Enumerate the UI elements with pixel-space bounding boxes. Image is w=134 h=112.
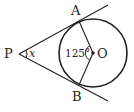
angle-arc-apb [26,50,27,58]
tangent-line-pb [19,54,108,101]
label-a: A [70,3,81,18]
label-p: P [4,46,13,61]
tangent-circle-diagram: P A B O 125° x [0,0,134,112]
angle-label-aob: 125° [65,47,90,59]
label-b: B [72,89,82,104]
center-dot [91,51,95,55]
angle-label-x: x [29,47,36,60]
label-o: O [97,46,108,61]
